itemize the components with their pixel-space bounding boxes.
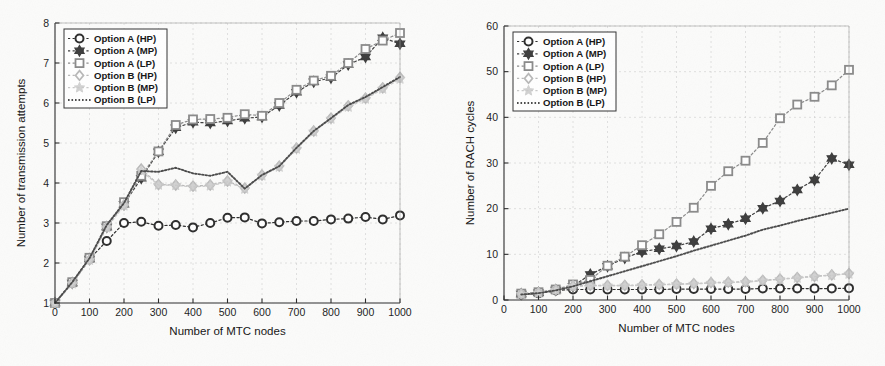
x-tick-label: 1000 <box>837 303 861 315</box>
data-point-marker <box>310 217 318 225</box>
series-option-b-mp <box>516 269 854 299</box>
y-tick-label: 6 <box>43 97 49 109</box>
data-point-marker <box>673 218 681 226</box>
legend-marker-icon <box>525 38 533 46</box>
y-tick-label: 1 <box>43 297 49 309</box>
y-tick-label: 10 <box>486 248 498 260</box>
legend-entry[interactable]: Option A (LP) <box>68 58 155 69</box>
legend[interactable]: Option A (HP)Option A (MP)Option A (LP)O… <box>513 32 616 111</box>
legend-label: Option B (MP) <box>94 82 158 93</box>
right-chart-svg: 0100200300400500600700800900100001020304… <box>442 0 885 366</box>
data-point-marker <box>793 285 801 293</box>
data-point-marker <box>742 157 750 165</box>
legend-label: Option A (HP) <box>543 36 605 47</box>
data-point-marker <box>258 112 266 120</box>
x-tick-label: 0 <box>501 303 507 315</box>
chart-panel-right: 0100200300400500600700800900100001020304… <box>442 0 885 366</box>
data-point-marker <box>241 213 249 221</box>
data-point-marker <box>775 274 785 284</box>
data-point-marker <box>809 271 819 281</box>
legend-marker-icon <box>525 62 533 70</box>
legend-label: Option A (MP) <box>543 48 606 59</box>
data-point-marker <box>655 230 663 238</box>
y-tick-label: 4 <box>43 177 49 189</box>
data-point-marker <box>206 219 214 227</box>
data-point-marker <box>137 218 145 226</box>
x-tick-label: 0 <box>52 306 58 318</box>
x-tick-label: 100 <box>81 306 99 318</box>
data-point-marker <box>258 219 266 227</box>
data-point-marker <box>155 222 163 230</box>
x-tick-label: 200 <box>115 306 133 318</box>
data-point-marker <box>344 215 352 223</box>
data-point-marker <box>171 180 181 190</box>
data-point-marker <box>792 273 802 283</box>
legend-marker-icon <box>76 35 84 43</box>
y-tick-label: 2 <box>43 257 49 269</box>
y-tick-label: 50 <box>486 65 498 77</box>
y-axis-label: Number of transmission attempts <box>15 78 27 247</box>
data-point-marker <box>827 270 837 280</box>
x-tick-label: 500 <box>668 303 686 315</box>
x-tick-label: 100 <box>530 303 548 315</box>
legend-label: Option B (HP) <box>94 70 157 81</box>
data-point-marker <box>690 204 698 212</box>
data-point-marker <box>621 253 629 261</box>
y-tick-label: 60 <box>486 20 498 32</box>
y-axis-label: Number of RACH cycles <box>464 100 476 225</box>
legend-entry[interactable]: Option A (HP) <box>68 33 156 44</box>
data-point-marker <box>828 81 836 89</box>
figure-container: 0100200300400500600700800900100012345678… <box>0 0 885 366</box>
data-point-marker <box>344 59 352 67</box>
data-point-marker <box>362 213 370 221</box>
legend-entry[interactable]: Option A (LP) <box>517 61 604 72</box>
data-point-marker <box>189 115 197 123</box>
data-point-marker <box>222 176 232 186</box>
data-point-marker <box>189 223 197 231</box>
data-point-marker <box>275 99 283 107</box>
data-point-marker <box>724 167 732 175</box>
data-point-marker <box>740 277 750 287</box>
chart-panel-left: 0100200300400500600700800900100012345678… <box>0 0 442 366</box>
x-axis-label: Number of MTC nodes <box>618 322 735 334</box>
x-tick-label: 600 <box>702 303 720 315</box>
y-tick-label: 40 <box>486 111 498 123</box>
x-tick-label: 800 <box>322 306 340 318</box>
legend-label: Option B (LP) <box>543 97 605 108</box>
legend-label: Option B (LP) <box>94 94 156 105</box>
data-point-marker <box>310 77 318 85</box>
x-tick-label: 700 <box>737 303 755 315</box>
data-point-marker <box>241 110 249 118</box>
data-point-marker <box>379 215 387 223</box>
legend[interactable]: Option A (HP)Option A (MP)Option A (LP)O… <box>64 29 167 108</box>
legend-label: Option B (HP) <box>543 73 606 84</box>
data-point-marker <box>379 37 387 45</box>
data-point-marker <box>224 214 232 222</box>
series-option-b-hp <box>517 269 853 299</box>
data-point-marker <box>327 215 335 223</box>
data-point-marker <box>793 101 801 109</box>
left-chart-svg: 0100200300400500600700800900100012345678… <box>0 0 442 366</box>
x-tick-label: 900 <box>806 303 824 315</box>
data-point-marker <box>776 285 784 293</box>
data-point-marker <box>776 114 784 122</box>
y-tick-label: 30 <box>486 157 498 169</box>
x-tick-label: 1000 <box>388 306 412 318</box>
data-point-marker <box>275 218 283 226</box>
legend-label: Option A (LP) <box>543 61 604 72</box>
data-point-marker <box>120 219 128 227</box>
data-point-marker <box>759 139 767 147</box>
x-tick-label: 400 <box>633 303 651 315</box>
y-tick-label: 8 <box>43 17 49 29</box>
x-tick-label: 400 <box>184 306 202 318</box>
data-point-marker <box>153 180 163 190</box>
legend-entry[interactable]: Option A (HP) <box>517 36 605 47</box>
data-point-marker <box>172 221 180 229</box>
data-point-marker <box>362 45 370 53</box>
data-point-marker <box>758 275 768 285</box>
y-tick-label: 7 <box>43 57 49 69</box>
legend-marker-icon <box>76 59 84 67</box>
x-axis-label: Number of MTC nodes <box>169 325 286 337</box>
x-tick-label: 300 <box>599 303 617 315</box>
data-point-marker <box>293 217 301 225</box>
